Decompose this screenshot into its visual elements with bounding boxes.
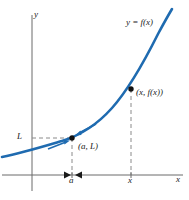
y-value-L-label: L bbox=[17, 132, 22, 141]
point-x-fx-label: (x, f(x)) bbox=[136, 88, 163, 97]
axis-arrow-right bbox=[75, 172, 82, 179]
approach-arrow-right bbox=[75, 124, 96, 136]
x-tick-a-label: a bbox=[69, 176, 74, 185]
x-axis-label: x bbox=[176, 175, 180, 184]
y-axis-label: y bbox=[34, 10, 38, 19]
graph-canvas bbox=[0, 0, 189, 200]
curve-label: y = f(x) bbox=[126, 18, 153, 27]
x-tick-x-label: x bbox=[128, 176, 132, 185]
function-curve bbox=[2, 9, 172, 157]
point-a-L-marker bbox=[69, 135, 74, 140]
point-x-fx-marker bbox=[128, 86, 133, 91]
point-a-L-label: (a, L) bbox=[78, 142, 98, 151]
limit-definition-figure: y x y = f(x) (x, f(x)) (a, L) L a x bbox=[0, 0, 189, 200]
